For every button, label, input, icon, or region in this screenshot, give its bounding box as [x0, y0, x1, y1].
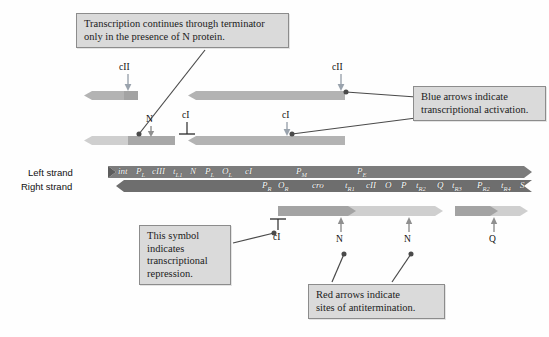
callout-line: sites of antitermination.: [316, 302, 438, 315]
gene-label: S: [520, 180, 525, 190]
blue-arrow-cii-right: [338, 74, 345, 91]
callout-line: This symbol: [147, 230, 224, 243]
gene-label: OL: [222, 166, 232, 178]
gene-label: tR3: [452, 180, 462, 192]
callout-line: Blue arrows indicate: [421, 91, 539, 104]
left-strand-bar: [108, 166, 532, 178]
label-n-mid: N: [146, 114, 153, 124]
right-strand-label: Right strand: [21, 181, 72, 192]
transcript-pl-top: [84, 91, 138, 100]
leader-blue-note-mid: [292, 118, 416, 134]
gene-label: cIII: [152, 166, 165, 176]
label-ci-bottom: cI: [273, 232, 280, 242]
gene-label: P: [401, 180, 407, 190]
gene-label: cI: [245, 166, 252, 176]
gene-label: N: [190, 166, 196, 176]
leader-blue-note-top: [346, 92, 416, 97]
leader-red-note-right: [392, 254, 411, 282]
callout-blue-arrow-note: Blue arrows indicate transcriptional act…: [413, 86, 546, 121]
label-n-bottom-left: N: [336, 234, 343, 244]
figure-canvas: Transcription continues through terminat…: [0, 0, 549, 337]
callout-line: Red arrows indicate: [316, 289, 438, 302]
gene-label: O: [385, 180, 392, 190]
label-cii-right: cII: [332, 62, 343, 72]
callout-repression-note: This symbol indicates transcriptional re…: [139, 225, 231, 285]
repression-symbol-bottom: [270, 219, 286, 230]
diagram-graphics-layer: [0, 0, 549, 337]
callout-line: only in the presence of N protein.: [84, 31, 282, 44]
transcript-pr-bottom: [278, 206, 443, 216]
leader-red-note-left: [332, 254, 344, 282]
red-arrow-q-bottom: [491, 217, 497, 232]
gene-label: tR2: [416, 180, 426, 192]
gene-label: cro: [312, 180, 324, 190]
blue-arrow-ci-right: [284, 122, 291, 136]
gene-label: int: [118, 166, 128, 176]
gene-label: cII: [366, 180, 376, 190]
leader-repression-note: [233, 233, 274, 243]
gene-label: OR: [278, 180, 288, 192]
label-ci-mid: cI: [182, 110, 189, 120]
label-n-bottom-right: N: [404, 234, 411, 244]
left-strand-label: Left strand: [28, 167, 73, 178]
callout-line: Transcription continues through terminat…: [84, 18, 282, 31]
label-cii-left: cII: [119, 62, 130, 72]
gene-label: tR4: [501, 180, 511, 192]
callout-line: transcriptional activation.: [421, 104, 539, 117]
gene-label: Q: [437, 180, 444, 190]
label-q-bottom: Q: [489, 234, 496, 244]
red-arrow-n-mid: [148, 126, 154, 137]
callout-terminator-note: Transcription continues through terminat…: [76, 13, 289, 48]
transcript-pr-mid: [188, 136, 345, 145]
gene-label: PM: [296, 166, 307, 178]
gene-label: PL: [205, 166, 214, 178]
callout-line: transcriptional: [147, 255, 224, 268]
label-ci-right: cI: [282, 110, 289, 120]
transcript-pl-mid: [84, 136, 175, 145]
callout-red-arrow-note: Red arrows indicate sites of antitermina…: [308, 284, 445, 319]
gene-label: PR: [262, 180, 271, 192]
blue-arrow-cii-left: [125, 74, 132, 91]
gene-label: PR2: [477, 180, 490, 192]
gene-label: tL1: [173, 166, 182, 178]
gene-label: tR1: [345, 180, 355, 192]
red-arrow-n-bottom-left: [338, 217, 344, 232]
transcript-pr-top: [188, 91, 345, 100]
transcript-pr2-bottom: [455, 206, 528, 216]
gene-label: PL: [136, 166, 145, 178]
callout-line: indicates: [147, 243, 224, 256]
callout-line: repression.: [147, 268, 224, 281]
right-strand-bar: [116, 180, 532, 192]
gene-label: PE: [357, 166, 366, 178]
repression-symbol-mid: [179, 122, 195, 134]
red-arrow-n-bottom-right: [406, 217, 412, 232]
